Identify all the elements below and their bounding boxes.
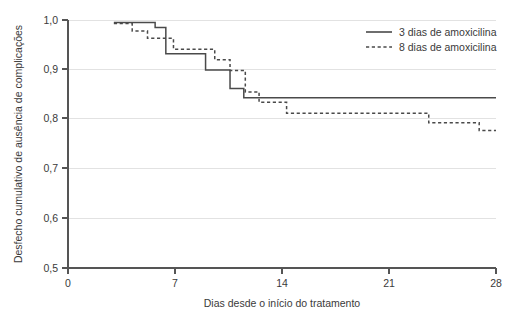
x-tick-label-28: 28 [490,277,502,289]
kaplan-meier-chart: 1,0 0,9 0,8 0,7 0,6 0,5 0 7 14 21 28 Dia… [0,0,518,322]
legend: 3 dias de amoxicilina 8 dias de amoxicil… [366,26,497,53]
y-axis-title: Desfecho cumulativo de ausência de compl… [12,25,24,263]
y-tick-label-0-8: 0,8 [43,112,58,124]
y-tick-label-0-7: 0,7 [43,162,58,174]
y-axis-ticks [62,20,68,268]
x-tick-label-0: 0 [65,277,71,289]
y-tick-label-0-6: 0,6 [43,212,58,224]
x-axis-title: Dias desde o início do tratamento [204,297,361,309]
y-tick-label-0-9: 0,9 [43,63,58,75]
x-axis-tick-labels: 0 7 14 21 28 [65,277,502,289]
y-tick-label-0-5: 0,5 [43,262,58,274]
legend-label-3-dias: 3 dias de amoxicilina [399,26,497,38]
axes [68,20,496,268]
y-axis-tick-labels: 1,0 0,9 0,8 0,7 0,6 0,5 [43,14,58,274]
legend-label-8-dias: 8 dias de amoxicilina [399,41,497,53]
x-axis-ticks [68,268,496,274]
series-line-8-dias [114,23,496,130]
chart-svg: 1,0 0,9 0,8 0,7 0,6 0,5 0 7 14 21 28 Dia… [0,0,518,322]
x-tick-label-21: 21 [383,277,395,289]
y-tick-label-1-0: 1,0 [43,14,58,26]
x-tick-label-14: 14 [276,277,288,289]
x-tick-label-7: 7 [172,277,178,289]
